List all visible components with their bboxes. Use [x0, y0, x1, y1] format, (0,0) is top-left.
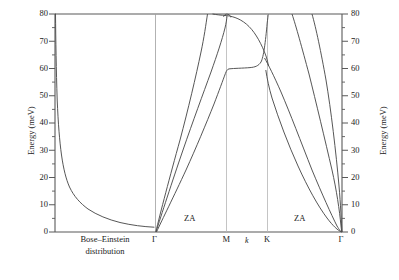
y-right-tick-80: 80 [351, 8, 360, 18]
y-right-tick-70: 70 [351, 36, 360, 46]
x-axis-title: k [245, 236, 249, 245]
bose-einstein-curve [56, 14, 155, 227]
x-tick-m: M [223, 234, 231, 244]
y-right-tick-0: 0 [351, 226, 355, 236]
figure-root: 0 10 20 30 40 50 60 70 80 0 10 20 30 40 … [0, 0, 399, 280]
za-label-left: ZA [184, 213, 195, 223]
y-axis-right-ticks [342, 14, 348, 232]
y-left-tick-20: 20 [31, 172, 48, 182]
bose-einstein-caption-line1: Bose–Einstein [55, 234, 155, 244]
y-right-tick-10: 10 [351, 199, 360, 209]
branch-TA [156, 16, 227, 232]
y-left-tick-70: 70 [31, 36, 48, 46]
y-left-tick-50: 50 [31, 90, 48, 100]
branch-ZA-right [266, 70, 342, 232]
y-right-tick-40: 40 [351, 117, 360, 127]
y-right-tick-30: 30 [351, 145, 360, 155]
y-left-tick-10: 10 [31, 199, 48, 209]
branch-LA [156, 14, 208, 232]
y-left-tick-60: 60 [31, 63, 48, 73]
y-right-tick-50: 50 [351, 90, 360, 100]
x-tick-gamma-right: Γ [339, 234, 344, 244]
y-right-tick-60: 60 [351, 63, 360, 73]
plot-frame [55, 14, 342, 232]
branch-plateau [157, 14, 269, 232]
branch-optical-1 [292, 14, 342, 232]
y-left-tick-80: 80 [31, 8, 48, 18]
bose-einstein-caption-line2: distribution [55, 246, 155, 256]
branch-upper-M-to-K [213, 14, 269, 66]
y-axis-left-title: Energy (meV) [26, 106, 36, 155]
y-axis-right-title: Energy (meV) [378, 106, 388, 155]
y-right-tick-20: 20 [351, 172, 360, 182]
za-label-right: ZA [294, 213, 305, 223]
x-tick-k: K [264, 234, 270, 244]
branch-K-to-gamma [265, 58, 342, 232]
y-axis-left-ticks [49, 14, 55, 232]
y-left-tick-0: 0 [37, 226, 48, 236]
